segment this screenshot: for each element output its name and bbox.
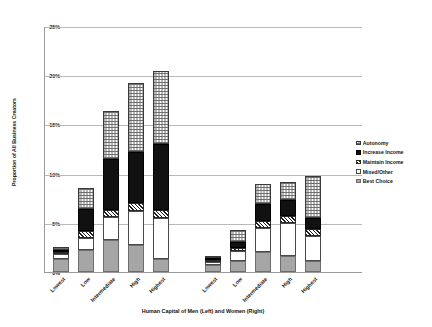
x-axis-tick-label: Highest: [300, 276, 318, 294]
stacked-bar: [205, 256, 221, 272]
bar-segment-maintain-income: [255, 221, 271, 228]
bar-segment-maintain-income: [230, 248, 246, 251]
bar-segment-mixed-other: [53, 254, 69, 259]
x-axis-tick-label: Intermediate: [89, 276, 116, 303]
stacked-bar: [128, 83, 144, 272]
bar-segment-maintain-income: [128, 203, 144, 211]
bar-segment-autonomy: [280, 182, 296, 201]
bar-segment-maintain-income: [78, 231, 94, 238]
bar-segment-best-choice: [78, 250, 94, 272]
bar-segment-mixed-other: [230, 251, 246, 261]
bar-segment-autonomy: [53, 247, 69, 250]
bar-segment-mixed-other: [103, 217, 119, 240]
legend-swatch-autonomy-icon: [356, 141, 361, 146]
bar-segment-best-choice: [280, 256, 296, 272]
bar-segment-autonomy: [128, 83, 144, 152]
bar-segment-mixed-other: [128, 211, 144, 245]
bar-segment-maintain-income: [53, 252, 69, 254]
bar-segment-mixed-other: [280, 223, 296, 256]
legend-swatch-maintain-income-icon: [356, 160, 361, 165]
bar-segment-increase-income: [230, 242, 246, 249]
bar-segment-increase-income: [205, 258, 221, 260]
y-axis-title-text: Proportion of All Business Creators: [11, 98, 17, 186]
bar-segment-autonomy: [78, 188, 94, 209]
bar-segment-best-choice: [305, 261, 321, 272]
bar-segment-autonomy: [305, 176, 321, 218]
stacked-bar: [103, 111, 119, 272]
legend-swatch-increase-income-icon: [356, 150, 361, 155]
bar-segment-best-choice: [153, 259, 169, 272]
x-axis-tick-label: Intermediate: [241, 276, 268, 303]
x-axis-tick-label: Low: [231, 276, 243, 288]
bar-segment-autonomy: [103, 111, 119, 159]
bar-segment-mixed-other: [205, 262, 221, 265]
legend-swatch-best-choice-icon: [356, 179, 361, 184]
legend-item[interactable]: Autonomy: [356, 138, 430, 148]
bar-segment-mixed-other: [153, 218, 169, 259]
stacked-bar: [153, 71, 169, 272]
bar-segment-increase-income: [153, 144, 169, 210]
stacked-bar: [230, 230, 246, 272]
stacked-bar-chart: Proportion of All Business Creators 0%5%…: [0, 0, 432, 327]
x-axis-tick-label: High: [281, 276, 294, 289]
x-axis-tick-label: Low: [79, 276, 91, 288]
bar-segment-increase-income: [305, 218, 321, 229]
bar-segment-best-choice: [230, 261, 246, 272]
legend-label: Autonomy: [363, 140, 389, 146]
bar-segment-best-choice: [103, 240, 119, 272]
bar-segment-maintain-income: [103, 210, 119, 217]
legend-label: Mixed/Other: [363, 169, 393, 175]
bar-segment-best-choice: [205, 265, 221, 272]
stacked-bar: [305, 176, 321, 272]
bar-segment-autonomy: [205, 256, 221, 258]
legend-item[interactable]: Increase Income: [356, 148, 430, 158]
bar-segment-best-choice: [53, 259, 69, 272]
legend-item[interactable]: Best Choice: [356, 176, 430, 186]
bar-segment-maintain-income: [280, 216, 296, 223]
bar-segment-maintain-income: [205, 260, 221, 262]
bar-segment-increase-income: [103, 159, 119, 210]
chart-legend: AutonomyIncrease IncomeMaintain IncomeMi…: [356, 138, 430, 186]
bar-segment-autonomy: [255, 184, 271, 204]
legend-label: Increase Income: [363, 149, 404, 155]
x-axis-title: Human Capital of Men (Left) and Women (R…: [44, 308, 362, 314]
stacked-bar: [78, 188, 94, 272]
legend-label: Best Choice: [363, 178, 393, 184]
bar-segment-mixed-other: [78, 238, 94, 251]
bar-segment-mixed-other: [305, 236, 321, 262]
bar-segment-increase-income: [280, 200, 296, 216]
bar-segment-increase-income: [53, 250, 69, 252]
plot-area: [44, 27, 362, 273]
bar-segment-increase-income: [128, 152, 144, 203]
legend-swatch-mixed-other-icon: [356, 169, 361, 174]
bar-segment-autonomy: [153, 71, 169, 144]
bar-segment-mixed-other: [255, 228, 271, 253]
stacked-bar: [255, 184, 271, 272]
bar-segment-increase-income: [255, 204, 271, 221]
bar-segment-increase-income: [78, 209, 94, 231]
stacked-bar: [53, 247, 69, 272]
x-axis-tick-label: Lowest: [49, 276, 66, 293]
bar-segment-maintain-income: [153, 210, 169, 218]
x-axis-tick-label: Highest: [148, 276, 166, 294]
legend-label: Maintain Income: [363, 159, 404, 165]
y-axis-title: Proportion of All Business Creators: [6, 0, 22, 285]
bar-segment-autonomy: [230, 230, 246, 242]
bar-segment-best-choice: [128, 245, 144, 272]
stacked-bar: [280, 182, 296, 272]
bar-series-container: [45, 27, 362, 272]
bar-segment-best-choice: [255, 252, 271, 272]
x-axis-tick-label: Lowest: [201, 276, 218, 293]
x-axis-tick-label: High: [129, 276, 142, 289]
legend-item[interactable]: Mixed/Other: [356, 167, 430, 177]
bar-segment-maintain-income: [305, 229, 321, 236]
legend-item[interactable]: Maintain Income: [356, 157, 430, 167]
